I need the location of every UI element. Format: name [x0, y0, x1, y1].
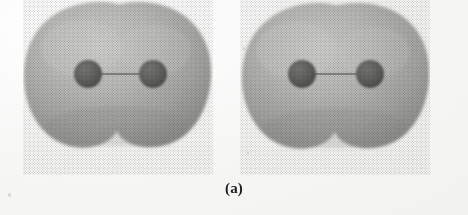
figure-caption: (a)	[0, 180, 468, 197]
diatomic-molecule-right	[240, 0, 430, 175]
diatomic-molecule-left	[23, 0, 213, 175]
atom-sphere-right	[139, 60, 167, 88]
atom-sphere-left	[288, 60, 316, 88]
surface-shadow	[264, 108, 408, 148]
atom-sphere-left	[74, 60, 102, 88]
molecule-stage	[0, 0, 468, 180]
surface-shadow	[46, 106, 190, 146]
figure-page: (a)	[0, 0, 468, 215]
atom-sphere-right	[356, 60, 384, 88]
